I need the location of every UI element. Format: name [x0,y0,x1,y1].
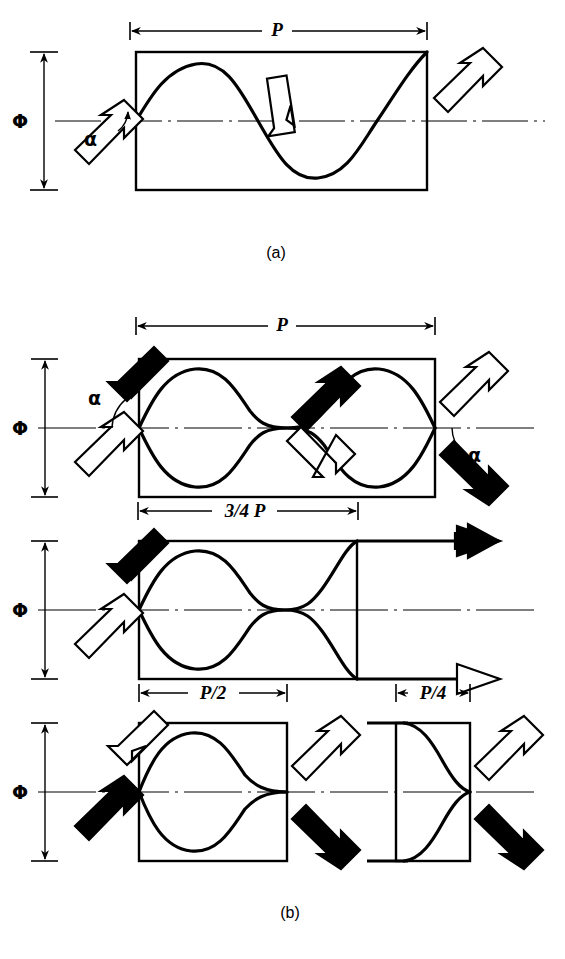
panel-b-row-half-and-quarter-pitch: P/2 P/4 Φ [12,682,543,921]
panel-a: P Φ α (a) [12,19,545,261]
diameter-label: Φ [12,417,28,439]
pitch-dimension-b1: P [136,314,435,335]
panel-b-row-full-pitch: P Φ α [12,314,540,505]
pitch-dimension-b2: 3/4 P [138,500,358,521]
exit-arrow-dark-half [292,805,360,869]
strand-quarter-lower [404,792,470,861]
strand-b1-upper [139,369,435,428]
figure-container: P Φ α (a) [0,0,565,959]
diameter-label: Φ [12,599,28,621]
panel-b-row-three-quarter-pitch: 3/4 P Φ [12,500,540,694]
exit-arrow [434,48,502,112]
pitch-label: P [270,19,283,40]
exit-arrow-light [440,352,508,416]
pitch-label: P [275,314,288,335]
caption-panel-a: (a) [266,244,286,261]
exit-arrow-dark [455,524,500,558]
angle-label: α [84,128,97,150]
exit-arrow-dark-quarter [475,805,543,869]
strand-half-upper [139,733,287,792]
pitch-dimension-half: P/2 [139,682,287,703]
exit-arrow-light-quarter [475,716,543,780]
pitch-label-quarter: P/4 [419,682,446,703]
diagram-svg: P Φ α (a) [0,0,565,959]
pitch-label: 3/4 P [224,500,266,521]
entry-arrow-light [75,412,143,476]
pitch-label-half: P/2 [199,682,227,703]
strand-b1-lower [139,428,435,487]
entry-arrow-dark-half [75,776,143,840]
diameter-label: Φ [12,781,28,803]
diameter-label: Φ [12,110,28,132]
exit-arrow-light-half [292,716,360,780]
diameter-dimension-a: Φ [12,52,58,190]
strand-half-lower [139,792,287,851]
angle-label-right: α [468,444,481,466]
mid-arrow-light [287,427,355,477]
caption-panel-b: (b) [280,904,300,921]
angle-label-left: α [88,387,101,409]
mid-arrow-dark [292,367,360,431]
exit-arrow-light [457,664,500,694]
entry-arrow-light [75,594,143,658]
pitch-dimension-a: P [130,19,427,40]
strand-quarter-upper [404,723,470,792]
